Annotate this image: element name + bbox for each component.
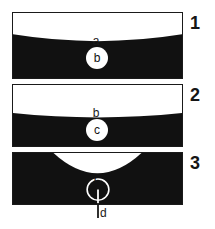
panel-3-callout-label: d [100,207,112,219]
panel-1-label-lower-badge: b [86,47,108,69]
panel-3-number: 3 [190,154,200,172]
figure-container: 1 a b 2 b c 3 c d [0,0,215,229]
panel-2-label-upper: b [89,107,103,119]
panel-2-number: 2 [190,86,200,104]
panel-1-number: 1 [190,14,200,32]
panel-2-label-lower-badge: c [86,119,108,141]
panel-3-label-dome: c [90,173,104,185]
panel-1-label-upper: a [89,35,103,47]
